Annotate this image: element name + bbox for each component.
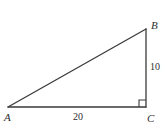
side-length-label-ac: 20 [73,112,83,122]
hypotenuse-ab-line [8,29,146,107]
right-triangle-svg [0,0,164,128]
geometry-figure-canvas: A B C 10 20 [0,0,164,128]
vertex-label-c: C [147,113,154,124]
vertex-label-a: A [4,112,11,123]
vertex-label-b: B [151,20,158,31]
side-length-label-bc: 10 [150,62,160,72]
right-angle-marker-icon [139,100,146,107]
